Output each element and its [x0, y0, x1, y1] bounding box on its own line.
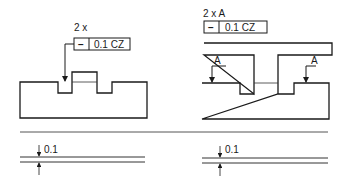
left-tolerance-zone: 0.1 [20, 144, 145, 175]
datum-a-right-leader [306, 66, 316, 82]
gdt-diagram: 2 x − 0.1 CZ 2 x A − 0.1 CZ A A [0, 0, 343, 187]
left-figure: 2 x − 0.1 CZ [20, 22, 147, 118]
right-zone-value: 0.1 [225, 144, 239, 155]
datum-a-left-label: A [214, 55, 221, 66]
right-part-outline [202, 83, 329, 119]
straightness-icon: − [78, 39, 84, 50]
left-tolerance-value: 0.1 CZ [94, 39, 124, 50]
left-count-label: 2 x [74, 22, 87, 33]
right-tolerance-value: 0.1 CZ [225, 22, 255, 33]
left-part-outline [20, 72, 147, 118]
left-feature-control-frame: − 0.1 CZ [74, 38, 130, 50]
right-tolerance-zone: 0.1 [202, 144, 328, 176]
datum-a-left-leader [212, 66, 226, 82]
left-zone-value: 0.1 [44, 144, 58, 155]
datum-a-right-label: A [311, 55, 318, 66]
right-tee-outline [204, 43, 332, 94]
right-figure: 2 x A − 0.1 CZ A A [202, 8, 332, 119]
right-feature-control-frame: − 0.1 CZ [204, 21, 267, 33]
straightness-icon: − [208, 22, 214, 33]
right-count-label: 2 x A [203, 8, 226, 19]
